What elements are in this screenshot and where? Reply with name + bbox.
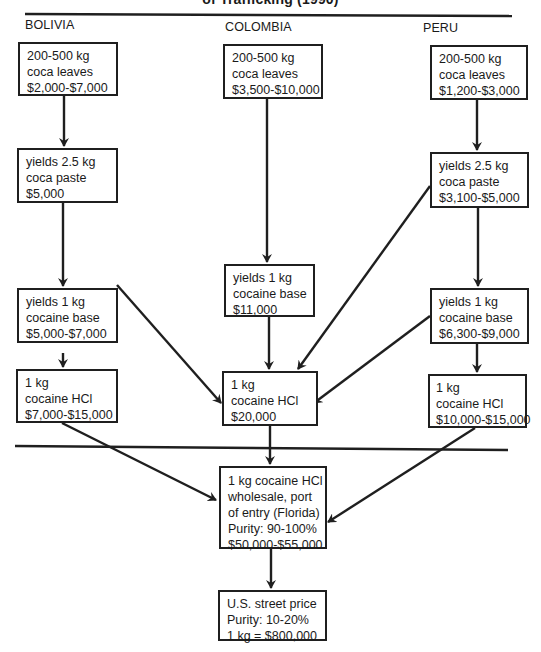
box-line: 200-500 kg: [27, 48, 110, 64]
box-line: cocaine HCl: [25, 391, 110, 407]
box-line: $11,000: [233, 302, 307, 318]
bolivia-coca-paste-box: yields 2.5 kg coca paste $5,000: [17, 148, 118, 203]
colombia-cocaine-hcl-box: 1 kg cocaine HCl $20,000: [222, 371, 318, 426]
box-line: $5,000-$7,000: [26, 326, 110, 342]
top-rule: [25, 14, 512, 16]
box-line: U.S. street price: [227, 596, 319, 612]
box-line: cocaine base: [233, 286, 307, 302]
box-line: $3,500-$10,000: [232, 82, 315, 98]
box-line: Purity: 10-20%: [227, 612, 319, 628]
country-label-peru: PERU: [423, 21, 458, 35]
box-line: cocaine base: [439, 310, 521, 326]
box-line: Purity: 90-100%: [228, 521, 319, 537]
box-line: cocaine base: [26, 310, 110, 326]
box-line: $5,000: [26, 186, 110, 202]
border-divider: [15, 446, 508, 450]
peru-coca-paste-box: yields 2.5 kg coca paste $3,100-$5,000: [430, 152, 529, 208]
peru-cocaine-base-box: yields 1 kg cocaine base $6,300-$9,000: [430, 288, 529, 344]
box-line: $2,000-$7,000: [27, 80, 110, 96]
bolivia-cocaine-base-box: yields 1 kg cocaine base $5,000-$7,000: [17, 288, 118, 343]
country-label-colombia: COLOMBIA: [225, 20, 292, 34]
bolivia-cocaine-hcl-box: 1 kg cocaine HCl $7,000-$15,000: [16, 369, 118, 423]
box-line: yields 1 kg: [26, 294, 110, 310]
bolivia-coca-leaves-box: 200-500 kg coca leaves $2,000-$7,000: [18, 42, 118, 96]
us-street-price-box: U.S. street price Purity: 10-20% 1 kg = …: [218, 590, 327, 641]
box-line: $1,200-$3,000: [439, 83, 520, 99]
box-line: $6,300-$9,000: [439, 326, 521, 342]
wholesale-florida-box: 1 kg cocaine HCl wholesale, port of entr…: [219, 466, 327, 549]
box-line: yields 2.5 kg: [439, 158, 521, 174]
country-label-bolivia: BOLIVIA: [25, 18, 74, 32]
box-line: coca paste: [439, 174, 521, 190]
box-line: 200-500 kg: [439, 51, 520, 67]
box-line: 1 kg = $800,000: [227, 628, 319, 644]
box-line: coca paste: [26, 170, 110, 186]
box-line: coca leaves: [27, 64, 110, 80]
box-line: yields 1 kg: [233, 270, 307, 286]
box-line: $10,000-$15,000: [436, 412, 519, 428]
box-line: $7,000-$15,000: [25, 407, 110, 423]
box-line: cocaine HCl: [436, 396, 519, 412]
box-line: $3,100-$5,000: [439, 190, 521, 206]
box-line: 1 kg: [25, 375, 110, 391]
box-line: 1 kg: [436, 380, 519, 396]
box-line: yields 1 kg: [439, 294, 521, 310]
peru-cocaine-hcl-box: 1 kg cocaine HCl $10,000-$15,000: [428, 374, 527, 428]
box-line: coca leaves: [232, 66, 315, 82]
box-line: 200-500 kg: [232, 50, 315, 66]
box-line: $50,000-$55,000: [228, 537, 319, 553]
box-line: yields 2.5 kg: [26, 154, 110, 170]
box-line: coca leaves: [439, 67, 520, 83]
box-line: 1 kg: [231, 377, 310, 393]
colombia-coca-leaves-box: 200-500 kg coca leaves $3,500-$10,000: [223, 44, 323, 99]
box-line: cocaine HCl: [231, 393, 310, 409]
box-line: 1 kg cocaine HCl: [228, 473, 319, 489]
colombia-cocaine-base-box: yields 1 kg cocaine base $11,000: [224, 264, 315, 317]
peru-coca-leaves-box: 200-500 kg coca leaves $1,200-$3,000: [430, 45, 528, 100]
box-line: $20,000: [231, 409, 310, 425]
box-line: of entry (Florida): [228, 505, 319, 521]
box-line: wholesale, port: [228, 489, 319, 505]
